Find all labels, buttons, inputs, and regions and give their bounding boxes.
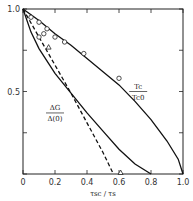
x-tick-label: 0.4 xyxy=(81,178,94,187)
x-tick-label: 0.2 xyxy=(49,178,62,187)
circle-marker xyxy=(37,20,41,24)
axis-ticks: 00.20.40.60.81.00.51.0 xyxy=(7,5,189,187)
annotation-numerator: Tc xyxy=(134,83,142,91)
curve-tc-tc0 xyxy=(23,9,183,174)
curve-dashed xyxy=(23,9,113,174)
circle-marker xyxy=(29,15,33,19)
markers xyxy=(29,15,123,174)
curves xyxy=(23,9,183,174)
y-tick-label: 1.0 xyxy=(7,5,20,14)
triangle-marker xyxy=(46,45,51,50)
annotation-denominator: Tc0 xyxy=(132,94,145,102)
x-tick-label: 0 xyxy=(20,178,25,187)
x-axis-label: τsc / τs xyxy=(90,190,116,198)
circle-marker xyxy=(45,27,49,31)
annotations: TcTc0ΔGΔ(0) xyxy=(46,83,147,123)
circle-marker xyxy=(117,76,121,80)
y-tick-label: 0.5 xyxy=(7,88,20,97)
circle-marker xyxy=(37,35,41,39)
annotation-numerator: ΔG xyxy=(50,104,61,112)
plot-frame xyxy=(23,9,183,174)
circle-marker xyxy=(82,51,86,55)
x-tick-label: 1.0 xyxy=(177,178,190,187)
chart: 00.20.40.60.81.00.51.0 TcTc0ΔGΔ(0) τsc /… xyxy=(0,0,193,201)
circle-marker xyxy=(62,40,66,44)
annotation-denominator: Δ(0) xyxy=(48,115,63,123)
circle-marker xyxy=(42,32,46,36)
x-tick-label: 0.8 xyxy=(145,178,158,187)
circle-marker xyxy=(53,35,57,39)
x-tick-label: 0.6 xyxy=(113,178,126,187)
